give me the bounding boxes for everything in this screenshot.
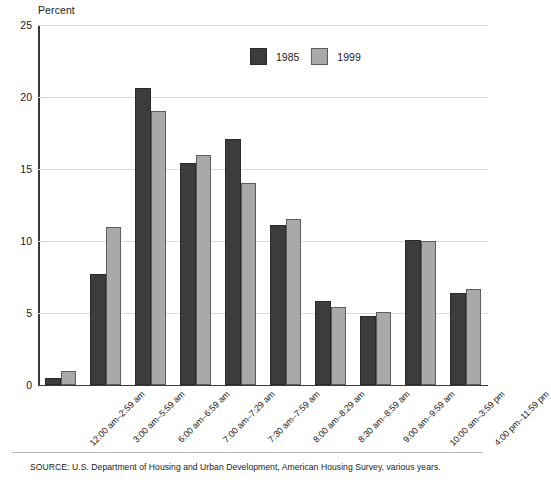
bar-group xyxy=(173,25,218,385)
bar-1985 xyxy=(135,88,151,385)
y-tick-label-5: 5 xyxy=(0,308,32,318)
legend-entry-1999: 1999 xyxy=(311,48,360,65)
bar-group xyxy=(83,25,128,385)
bar-group xyxy=(308,25,353,385)
y-axis-title: Percent xyxy=(38,4,75,16)
legend-label: 1999 xyxy=(337,51,360,63)
y-tick-label-0: 0 xyxy=(0,380,32,390)
bar-group xyxy=(353,25,398,385)
bar-1999 xyxy=(106,227,122,385)
bar-1999 xyxy=(286,219,302,385)
bar-1985 xyxy=(225,139,241,385)
gridline-0 xyxy=(38,385,488,386)
bar-1999 xyxy=(466,289,482,385)
bar-1999 xyxy=(421,241,437,385)
bar-group xyxy=(218,25,263,385)
bar-1985 xyxy=(360,316,376,385)
bar-group xyxy=(443,25,488,385)
y-tick-label-20: 20 xyxy=(0,92,32,102)
bar-1985 xyxy=(450,293,466,385)
legend-label: 1985 xyxy=(276,51,299,63)
legend-entry-1985: 1985 xyxy=(250,48,299,65)
bar-1999 xyxy=(241,183,257,385)
bar-group xyxy=(38,25,83,385)
y-tick-label-25: 25 xyxy=(0,20,32,30)
bar-group xyxy=(398,25,443,385)
plot-area xyxy=(38,25,488,385)
bar-1999 xyxy=(196,155,212,385)
y-tick-label-10: 10 xyxy=(0,236,32,246)
bar-1999 xyxy=(376,312,392,385)
legend-swatch-icon xyxy=(311,48,328,65)
bar-group xyxy=(128,25,173,385)
bar-1985 xyxy=(315,301,331,385)
bar-1985 xyxy=(90,274,106,385)
bar-1999 xyxy=(331,307,347,385)
bar-1999 xyxy=(61,371,77,385)
footer-divider xyxy=(12,452,483,453)
bar-1985 xyxy=(180,163,196,385)
bar-1985 xyxy=(45,378,61,385)
bar-1985 xyxy=(270,225,286,385)
bar-group xyxy=(263,25,308,385)
y-tick-label-15: 15 xyxy=(0,164,32,174)
source-note: SOURCE: U.S. Department of Housing and U… xyxy=(30,462,441,472)
chart-legend: 19851999 xyxy=(250,48,361,65)
legend-swatch-icon xyxy=(250,48,267,65)
bar-1985 xyxy=(405,240,421,385)
bar-1999 xyxy=(151,111,167,385)
